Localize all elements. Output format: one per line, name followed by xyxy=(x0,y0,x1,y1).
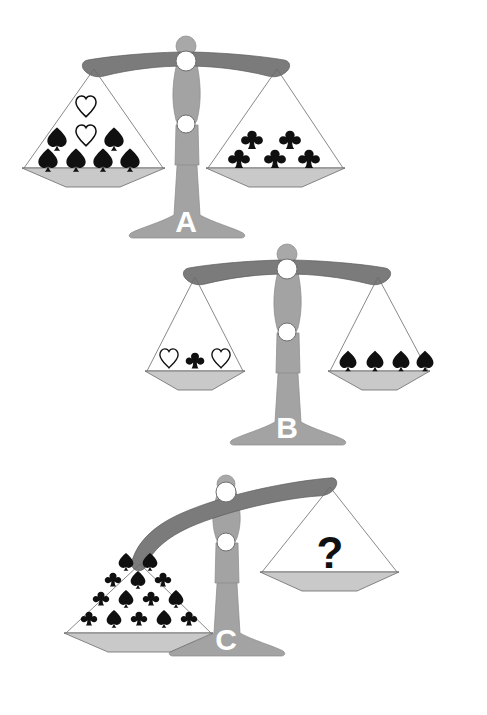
scale-a-right-pan-items xyxy=(228,131,320,168)
scale-a-left-pan-bowl xyxy=(22,168,165,187)
scale-a-letter: A xyxy=(175,205,197,238)
scale-b-left-pan-items xyxy=(160,349,230,369)
scale-b-right-pan[interactable] xyxy=(328,277,433,390)
scale-c-joint xyxy=(217,533,235,551)
scale-a-right-pan-bowl xyxy=(206,168,345,187)
scale-b[interactable]: B xyxy=(145,244,433,445)
scale-a-left-pan-items xyxy=(38,96,139,172)
scale-a[interactable]: A xyxy=(22,36,345,238)
scale-b-right-pan-items xyxy=(340,351,434,371)
scale-b-letter: B xyxy=(276,411,298,444)
scale-b-left-pan-bowl xyxy=(145,371,245,390)
scale-c-pivot xyxy=(216,482,236,502)
scale-b-left-pan[interactable] xyxy=(145,277,245,390)
puzzle-canvas: A xyxy=(0,0,487,715)
balance-scale-puzzle: A xyxy=(0,0,487,715)
scale-b-right-pan-bowl xyxy=(328,371,430,390)
scale-c-letter: C xyxy=(215,623,237,656)
scale-b-joint xyxy=(278,323,296,341)
scale-b-pivot xyxy=(277,259,297,279)
scale-a-right-pan[interactable] xyxy=(206,69,345,187)
scale-a-left-pan[interactable] xyxy=(22,69,165,187)
scale-a-joint xyxy=(177,115,195,133)
scale-c[interactable]: ? C xyxy=(64,475,399,656)
scale-c-right-pan[interactable]: ? xyxy=(260,487,399,591)
scale-a-pivot xyxy=(176,51,196,71)
scale-c-unknown-question-mark: ? xyxy=(317,528,344,577)
